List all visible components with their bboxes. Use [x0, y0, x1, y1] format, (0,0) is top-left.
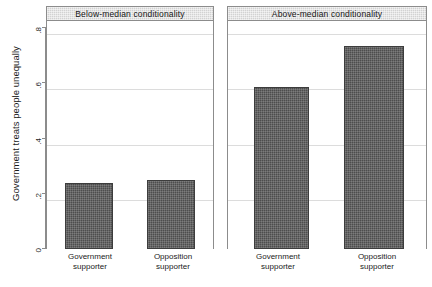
panel-above-median: Above-median conditionality: [227, 6, 427, 249]
x-tick-label-government: Government supporter: [233, 252, 323, 271]
bar-below-median-opposition: [147, 180, 195, 249]
y-tick-label-3: .6: [35, 82, 43, 89]
y-tick-label-1: .2: [35, 193, 43, 200]
x-tick-label-line1: Opposition: [358, 252, 396, 261]
x-tick-label-line1: Government: [68, 252, 112, 261]
x-tick-label-line1: Opposition: [154, 252, 192, 261]
plot-area: [47, 21, 213, 249]
x-axis-below-median: Government supporter Opposition supporte…: [46, 250, 214, 284]
bar-above-median-opposition: [344, 46, 404, 249]
plot-area: [228, 21, 426, 249]
y-tick-label-2: .4: [35, 138, 43, 145]
x-axis-above-median: Government supporter Opposition supporte…: [227, 250, 427, 284]
x-tick-label-government: Government supporter: [50, 252, 130, 271]
gridline: [47, 145, 213, 146]
y-axis: 0 .2 .4 .6 .8: [0, 0, 46, 287]
y-tick-label-0: 0: [35, 248, 43, 252]
x-tick-label-line1: Government: [256, 252, 300, 261]
x-tick-label-opposition: Opposition supporter: [333, 252, 421, 271]
gridline: [47, 89, 213, 90]
panel-title-strip: Above-median conditionality: [228, 7, 426, 21]
x-tick-label-opposition: Opposition supporter: [135, 252, 211, 271]
panel-title-strip: Below-median conditionality: [47, 7, 213, 21]
bar-above-median-government: [254, 87, 309, 249]
panel-below-median: Below-median conditionality: [46, 6, 214, 249]
bar-chart-figure: Government treats people unequally 0 .2 …: [0, 0, 432, 287]
x-tick-label-line2: supporter: [50, 262, 130, 272]
gridline: [228, 34, 426, 35]
x-tick-label-line2: supporter: [233, 262, 323, 272]
x-tick-label-line2: supporter: [333, 262, 421, 272]
panel-title-label: Below-median conditionality: [75, 9, 184, 19]
panel-title-label: Above-median conditionality: [272, 9, 382, 19]
y-tick-label-4: .8: [35, 27, 43, 34]
gridline: [47, 34, 213, 35]
bar-below-median-government: [65, 183, 113, 249]
x-tick-label-line2: supporter: [135, 262, 211, 272]
